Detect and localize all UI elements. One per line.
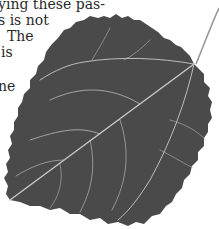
- leaf-illustration: [0, 0, 219, 229]
- leaf-blade: [4, 14, 212, 226]
- leaf-stem: [196, 8, 219, 64]
